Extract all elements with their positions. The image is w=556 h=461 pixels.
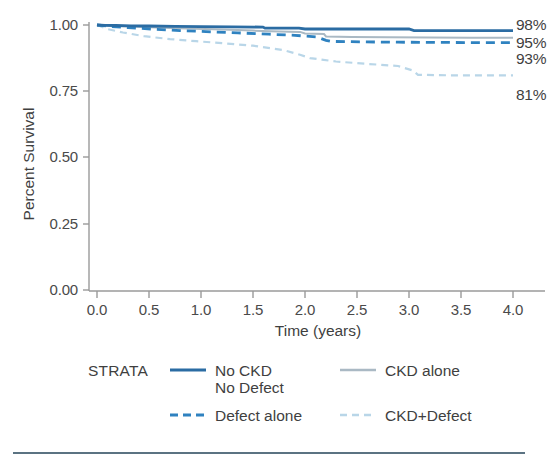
- legend-swatch-solid-dark-blue-icon: [170, 363, 206, 377]
- y-tick-label-5: 0.00: [24, 281, 78, 298]
- legend-label-defect-alone: Defect alone: [215, 407, 302, 424]
- legend: STRATA No CKD No Defect CKD alone Defect…: [0, 357, 556, 427]
- x-tick-label-4: 1.5: [231, 301, 275, 318]
- x-tick-label-6: 2.5: [335, 301, 379, 318]
- endpoint-label-no-ckd-no-defect: 98%: [516, 16, 546, 34]
- legend-item-defect-alone[interactable]: Defect alone: [170, 407, 302, 424]
- x-tick-label-1: 0.0: [75, 301, 119, 318]
- legend-label-ckd-alone: CKD alone: [385, 362, 460, 379]
- legend-swatch-dashed-pale-blue-icon: [340, 408, 376, 422]
- legend-label-ckd-plus-defect: CKD+Defect: [385, 407, 472, 424]
- endpoint-label-defect-alone: 93%: [516, 50, 546, 68]
- bottom-divider: [13, 452, 525, 454]
- x-axis-title: Time (years): [178, 322, 458, 340]
- y-axis-title: Percent Survival: [20, 64, 38, 264]
- legend-swatch-solid-gray-icon: [340, 363, 376, 377]
- endpoint-label-ckd-plus-defect: 81%: [516, 86, 546, 104]
- legend-label-no-ckd-no-defect: No CKD No Defect: [215, 362, 284, 396]
- x-tick-label-7: 3.0: [387, 301, 431, 318]
- legend-swatch-dashed-blue-icon: [170, 408, 206, 422]
- x-tick-label-2: 0.5: [127, 301, 171, 318]
- y-tick-label-1: 1.00: [24, 16, 78, 33]
- x-tick-marks: [97, 291, 513, 298]
- x-tick-label-8: 3.5: [439, 301, 483, 318]
- axis-lines: [89, 22, 545, 291]
- legend-item-no-ckd-no-defect[interactable]: No CKD No Defect: [170, 362, 284, 396]
- survival-curve-figure: 1.00 0.75 0.50 0.25 0.00 0.0 0.5 1.0 1.5…: [0, 0, 556, 461]
- legend-title: STRATA: [88, 362, 148, 380]
- legend-item-ckd-alone[interactable]: CKD alone: [340, 362, 460, 379]
- x-tick-label-9: 4.0: [491, 301, 535, 318]
- x-tick-label-3: 1.0: [179, 301, 223, 318]
- legend-item-ckd-plus-defect[interactable]: CKD+Defect: [340, 407, 472, 424]
- x-tick-label-5: 2.0: [283, 301, 327, 318]
- y-tick-marks: [83, 25, 89, 290]
